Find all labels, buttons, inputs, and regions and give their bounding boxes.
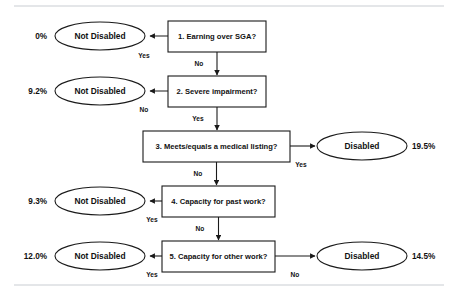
terminal-not-disabled-step5-label: Not Disabled [74, 251, 125, 261]
edge-label-step3-yes: Yes [295, 161, 307, 168]
percent-step2-no: 9.2% [28, 87, 47, 96]
edge-label-step4-yes: Yes [146, 216, 158, 223]
percent-step4-yes: 9.3% [28, 197, 47, 206]
edge-label-step4-no: No [196, 225, 205, 232]
terminal-not-disabled-step4-label: Not Disabled [74, 196, 125, 206]
terminal-not-disabled-step1-label: Not Disabled [74, 31, 125, 41]
edge-label-step2-yes: Yes [192, 115, 204, 122]
row-step2: Not Disabled 9.2% 2. Severe impairment? … [28, 76, 266, 130]
row-step1: Not Disabled 0% 1. Earning over SGA? Yes… [35, 21, 266, 75]
decision-box-step5-label: 5. Capacity for other work? [170, 252, 268, 261]
disability-determination-flowchart: Not Disabled 0% 1. Earning over SGA? Yes… [0, 0, 458, 294]
decision-box-step3-label: 3. Meets/equals a medical listing? [156, 142, 278, 151]
row-step3: 3. Meets/equals a medical listing? Yes D… [143, 131, 436, 185]
percent-step3-yes: 19.5% [412, 142, 436, 151]
edge-label-step5-yes: Yes [146, 271, 158, 278]
row-step4: Not Disabled 9.3% 4. Capacity for past w… [28, 186, 275, 240]
row-step5: Not Disabled 12.0% 5. Capacity for other… [24, 241, 436, 278]
terminal-disabled-step5-label: Disabled [345, 251, 380, 261]
edge-label-step3-no: No [194, 170, 203, 177]
terminal-disabled-step3-label: Disabled [345, 141, 380, 151]
decision-box-step2-label: 2. Severe impairment? [176, 87, 257, 96]
percent-step5-yes: 12.0% [24, 252, 48, 261]
decision-box-step1-label: 1. Earning over SGA? [178, 32, 256, 41]
edge-label-step2-no: No [140, 106, 149, 113]
edge-label-step1-yes: Yes [138, 52, 150, 59]
terminal-not-disabled-step2-label: Not Disabled [74, 86, 125, 96]
percent-step1-yes: 0% [35, 32, 48, 41]
edge-label-step1-no: No [195, 60, 204, 67]
percent-step5-no: 14.5% [412, 252, 436, 261]
edge-label-step5-no: No [291, 271, 300, 278]
decision-box-step4-label: 4. Capacity for past work? [171, 197, 266, 206]
